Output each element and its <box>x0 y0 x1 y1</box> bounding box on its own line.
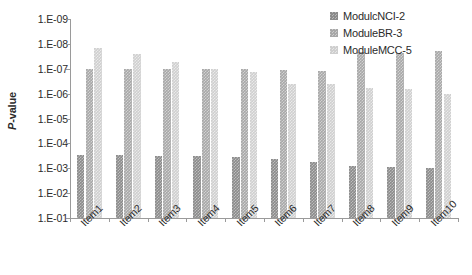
legend-item: ModuleBR-3 <box>330 25 470 40</box>
y-axis-tick-label: 1.E-01 <box>24 213 68 223</box>
y-axis-tick-label: 1.E-09 <box>24 14 68 24</box>
bar <box>435 51 443 218</box>
bar <box>271 159 279 218</box>
x-axis-tick-labels: Item1Item2Item3Item4Item5Item6Item7Item8… <box>70 220 458 275</box>
bar <box>193 156 201 218</box>
bar <box>172 62 180 218</box>
bar-group <box>225 19 264 218</box>
bar <box>77 155 85 218</box>
bar-group <box>109 19 148 218</box>
bar <box>133 54 141 218</box>
bar <box>310 162 318 218</box>
bar <box>202 69 210 218</box>
bar <box>241 69 249 218</box>
y-axis-title-rest: -value <box>6 92 18 123</box>
bar <box>94 48 102 218</box>
legend-label: ModuleBR-3 <box>343 27 402 39</box>
bar <box>155 156 163 218</box>
legend-item: ModulcNCI-2 <box>330 8 470 23</box>
y-axis-tick-label: 1.E-05 <box>24 114 68 124</box>
bar <box>116 155 124 218</box>
bar-group <box>186 19 225 218</box>
bar <box>396 53 404 218</box>
legend-item: ModuleMCC-5 <box>330 42 470 57</box>
bar-chart: P-value 1.E-091.E-081.E-071.E-061.E-051.… <box>0 0 472 275</box>
bar <box>124 69 132 218</box>
bar-group <box>264 19 303 218</box>
legend-swatch-icon <box>330 29 338 37</box>
chart-legend: ModulcNCI-2 ModuleBR-3 ModuleMCC-5 <box>330 8 470 59</box>
bar <box>86 69 94 218</box>
legend-swatch-icon <box>330 12 338 20</box>
bar <box>426 168 434 218</box>
bar <box>288 84 296 218</box>
bar <box>366 88 374 218</box>
y-axis-tick-label: 1.E-04 <box>24 138 68 148</box>
legend-swatch-icon <box>330 46 338 54</box>
bar-group <box>70 19 109 218</box>
bar <box>211 69 219 218</box>
legend-label: ModuleMCC-5 <box>343 44 412 56</box>
y-axis-tick-label: 1.E-08 <box>24 39 68 49</box>
bar <box>163 69 171 218</box>
bar <box>349 166 357 218</box>
bar <box>327 84 335 218</box>
x-axis-tick-mark <box>458 218 459 222</box>
bar <box>318 71 326 218</box>
bar <box>357 52 365 218</box>
bar <box>250 72 258 218</box>
y-axis-tick-labels: 1.E-091.E-081.E-071.E-061.E-051.E-041.E-… <box>20 0 68 275</box>
bar <box>387 167 395 219</box>
bar <box>280 70 288 218</box>
y-axis-tick-label: 1.E-07 <box>24 64 68 74</box>
bar <box>405 89 413 218</box>
bar-group <box>148 19 187 218</box>
y-axis-tick-label: 1.E-06 <box>24 89 68 99</box>
y-axis-tick-label: 1.E-02 <box>24 188 68 198</box>
y-axis-title-italic: P <box>6 123 18 130</box>
legend-label: ModulcNCI-2 <box>343 10 405 22</box>
bar <box>232 157 240 218</box>
y-axis-tick-label: 1.E-03 <box>24 163 68 173</box>
